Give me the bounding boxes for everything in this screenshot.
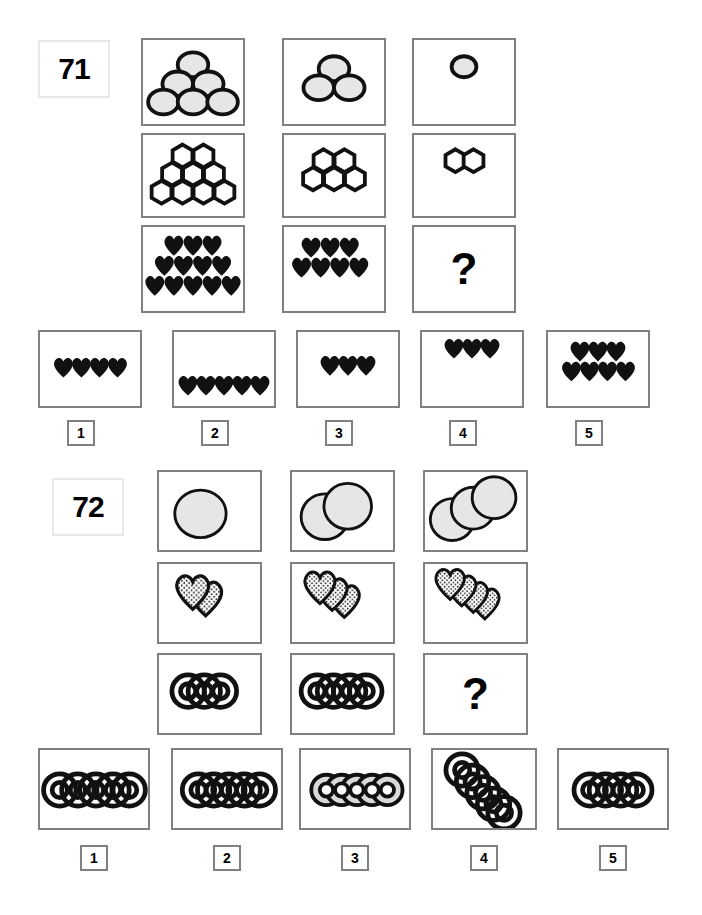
puzzle-72-option-1-number: 1 (80, 845, 108, 871)
hexagon-pyramid-5-icon (284, 135, 384, 216)
option-label: 3 (351, 850, 359, 866)
option-label: 5 (609, 850, 617, 866)
dotted-heart-stack-4-icon (425, 564, 526, 642)
puzzle-71-option-5-number: 5 (575, 420, 603, 446)
disc-stack-2-icon (292, 472, 393, 550)
ring-row-3-icon (159, 655, 260, 733)
puzzle-72-option-4[interactable] (431, 748, 537, 830)
heart-pyramid-7-option-icon (548, 332, 648, 406)
ring-diagonal-5-icon (433, 750, 535, 828)
puzzle-72-option-3[interactable] (299, 748, 411, 830)
puzzle-71-cell-r3c1 (141, 225, 245, 313)
option-label: 4 (459, 425, 467, 441)
option-label: 1 (90, 850, 98, 866)
puzzle-71-option-4-number: 4 (449, 420, 477, 446)
disc-stack-1-icon (159, 472, 260, 550)
puzzle-71-option-3[interactable] (296, 330, 400, 408)
puzzle-72-cell-r1c3 (423, 470, 528, 552)
option-label: 3 (335, 425, 343, 441)
heart-pyramid-12-icon (143, 227, 243, 311)
heart-pyramid-7-icon (284, 227, 384, 311)
puzzle-72-cell-r3c1 (157, 653, 262, 735)
puzzle-71-cell-r2c2 (282, 133, 386, 218)
dotted-heart-stack-3-icon (292, 564, 393, 642)
puzzle-71-question-mark: ? (414, 227, 514, 311)
heart-row-4-icon (40, 332, 140, 406)
option-label: 4 (480, 850, 488, 866)
ring-row-5-overlap-icon (173, 750, 281, 828)
option-label: 2 (211, 425, 219, 441)
puzzle-72-option-5-number: 5 (599, 845, 627, 871)
puzzle-72-number: 72 (72, 490, 103, 524)
puzzle-71-number-box: 71 (38, 40, 110, 98)
puzzle-72-number-box: 72 (52, 478, 124, 536)
puzzle-71-option-2-number: 2 (201, 420, 229, 446)
puzzle-71-option-4[interactable] (420, 330, 524, 408)
puzzle-72-cell-r3c2 (290, 653, 395, 735)
ring-row-4-option-icon (559, 750, 667, 828)
ring-row-5-spaced-icon (40, 750, 148, 828)
puzzle-71-option-5[interactable] (546, 330, 650, 408)
puzzle-72-option-5[interactable] (557, 748, 669, 830)
puzzle-71-cell-r2c3 (412, 133, 516, 218)
heart-row-3-icon (298, 332, 398, 406)
puzzle-71-cell-r2c1 (141, 133, 245, 218)
puzzle-71-number: 71 (58, 52, 89, 86)
puzzle-72-option-1[interactable] (38, 748, 150, 830)
puzzle-71-cell-r1c2 (282, 38, 386, 126)
hexagon-pair-icon (414, 135, 514, 216)
puzzle-72-option-2-number: 2 (213, 845, 241, 871)
puzzle-71-cell-r1c3 (412, 38, 516, 126)
ring-row-5-gray-icon (301, 750, 409, 828)
disc-stack-3-icon (425, 472, 526, 550)
puzzle-72-question-mark: ? (425, 655, 526, 733)
hexagon-pyramid-9-icon (143, 135, 243, 216)
heart-row-3-top-icon (422, 332, 522, 406)
puzzle-71-option-2[interactable] (172, 330, 276, 408)
puzzle-71-cell-r1c1 (141, 38, 245, 126)
puzzle-71-cell-r3c3: ? (412, 225, 516, 313)
puzzle-71-option-3-number: 3 (325, 420, 353, 446)
puzzle-72-cell-r1c1 (157, 470, 262, 552)
ring-row-4-icon (292, 655, 393, 733)
option-label: 1 (77, 425, 85, 441)
puzzle-page: 71 (0, 0, 702, 915)
puzzle-71-cell-r3c2 (282, 225, 386, 313)
puzzle-71-option-1[interactable] (38, 330, 142, 408)
puzzle-72-option-3-number: 3 (341, 845, 369, 871)
circle-pyramid-3-icon (284, 40, 384, 124)
puzzle-72-cell-r1c2 (290, 470, 395, 552)
puzzle-72-cell-r2c3 (423, 562, 528, 644)
heart-row-5-icon (174, 332, 274, 406)
puzzle-72-option-2[interactable] (171, 748, 283, 830)
puzzle-72-option-4-number: 4 (470, 845, 498, 871)
puzzle-71-option-1-number: 1 (67, 420, 95, 446)
option-label: 5 (585, 425, 593, 441)
circle-single-icon (414, 40, 514, 124)
dotted-heart-stack-2-icon (159, 564, 260, 642)
puzzle-72-cell-r2c1 (157, 562, 262, 644)
circle-pyramid-6-icon (143, 40, 243, 124)
option-label: 2 (223, 850, 231, 866)
puzzle-72-cell-r2c2 (290, 562, 395, 644)
puzzle-72-cell-r3c3: ? (423, 653, 528, 735)
